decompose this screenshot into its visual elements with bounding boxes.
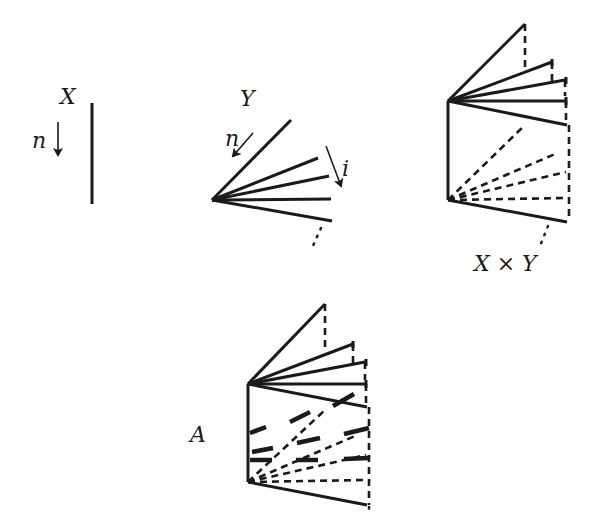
arrow-i-icon [326,146,341,186]
ellipsis-product [540,226,548,246]
label-x: X [58,84,77,109]
ellipsis-y [312,228,321,248]
label-a: A [188,422,206,447]
label-x-arrow-n: n [32,128,46,153]
panel-product: X × Y [448,24,569,276]
label-y-arrow-i: i [342,156,349,181]
label-y: Y [240,86,257,111]
label-product: X × Y [472,251,539,276]
panel-y: Y n i [212,86,349,248]
label-y-arrow-n: n [225,126,239,151]
panel-x: X n [32,84,92,204]
diagram-canvas: X n Y n i [0,0,600,530]
panel-a: A [188,304,369,514]
